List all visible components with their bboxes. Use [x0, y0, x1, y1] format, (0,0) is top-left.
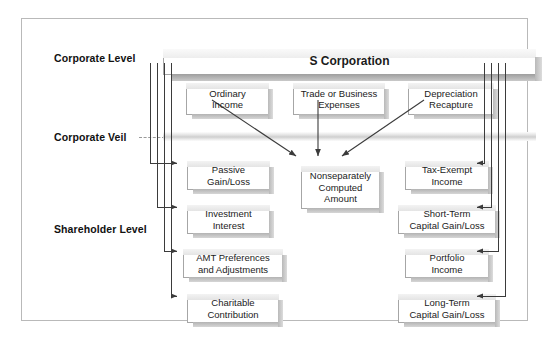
corporate-veil-band — [163, 132, 536, 141]
node-label: Tax-ExemptIncome — [419, 164, 475, 187]
node-long-term-capital-gain-loss: Long-TermCapital Gain/Loss — [398, 294, 496, 323]
box-shadow-right — [278, 300, 283, 327]
box-shadow-bottom — [404, 233, 500, 238]
box-shadow-right — [384, 89, 389, 119]
box-shadow-bottom — [193, 189, 274, 194]
box-shadow-bottom — [414, 114, 498, 119]
box-shadow-right — [535, 57, 542, 81]
box-shadow-right — [493, 89, 498, 119]
diagram-canvas: Corporate Level Corporate Veil Sharehold… — [0, 0, 550, 339]
node-label: InvestmentInterest — [202, 208, 254, 231]
node-charitable-contribution: CharitableContribution — [187, 294, 279, 323]
box-shadow-right — [379, 172, 384, 213]
level-label-corporate-level: Corporate Level — [54, 52, 135, 64]
node-depreciation-recapture: DepreciationRecapture — [408, 83, 494, 115]
box-shadow-bottom — [193, 322, 283, 327]
node-ordinary-income: OrdinaryIncome — [186, 83, 269, 115]
box-shadow-bottom — [404, 322, 500, 327]
level-label-corporate-veil: Corporate Veil — [54, 131, 127, 143]
box-shadow-bottom — [189, 277, 287, 282]
node-label: S Corporation — [307, 56, 393, 68]
node-label: OrdinaryIncome — [206, 88, 248, 111]
node-nonseparately-computed-amount: NonseparatelyComputedAmount — [301, 166, 380, 209]
box-shadow-right — [495, 300, 500, 327]
node-label: CharitableContribution — [204, 297, 261, 320]
node-label: Short-TermCapital Gain/Loss — [407, 208, 488, 231]
box-shadow-right — [268, 89, 273, 119]
node-label: Long-TermCapital Gain/Loss — [407, 297, 488, 320]
box-shadow-bottom — [171, 74, 542, 81]
node-label: NonseparatelyComputedAmount — [307, 170, 374, 205]
box-shadow-bottom — [411, 189, 493, 194]
box-shadow-bottom — [307, 208, 384, 213]
node-tax-exempt-income: Tax-ExemptIncome — [405, 161, 489, 190]
box-shadow-right — [488, 167, 493, 194]
node-label: PassiveGain/Loss — [204, 164, 253, 187]
node-short-term-capital-gain-loss: Short-TermCapital Gain/Loss — [398, 205, 496, 234]
box-shadow-right — [269, 211, 274, 238]
box-shadow-bottom — [192, 114, 273, 119]
node-label: DepreciationRecapture — [421, 88, 480, 111]
node-investment-interest: InvestmentInterest — [187, 205, 270, 234]
diagram-frame: Corporate Level Corporate Veil Sharehold… — [21, 18, 528, 321]
box-shadow-right — [495, 211, 500, 238]
box-shadow-right — [269, 167, 274, 194]
box-shadow-bottom — [299, 114, 389, 119]
node-label: AMT Preferencesand Adjustments — [193, 252, 273, 275]
node-portfolio-income: PortfolioIncome — [405, 249, 489, 278]
box-shadow-right — [282, 255, 287, 282]
box-shadow-bottom — [411, 277, 493, 282]
node-s-corporation: S Corporation — [163, 49, 536, 75]
corporate-veil-dashed-connector — [139, 137, 165, 138]
node-passive-gain-loss: PassiveGain/Loss — [187, 161, 270, 190]
box-shadow-bottom — [193, 233, 274, 238]
node-label: Trade or BusinessExpenses — [298, 88, 381, 111]
node-label: PortfolioIncome — [427, 252, 468, 275]
level-label-shareholder-level: Shareholder Level — [54, 223, 147, 235]
node-trade-or-business-expenses: Trade or BusinessExpenses — [293, 83, 385, 115]
node-amt-preferences-and-adjustments: AMT Preferencesand Adjustments — [183, 249, 283, 278]
box-shadow-right — [488, 255, 493, 282]
